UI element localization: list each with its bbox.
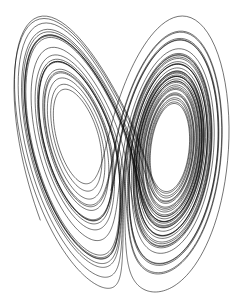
- lorenz-attractor-figure: [0, 0, 247, 306]
- attractor-plot: [0, 0, 247, 306]
